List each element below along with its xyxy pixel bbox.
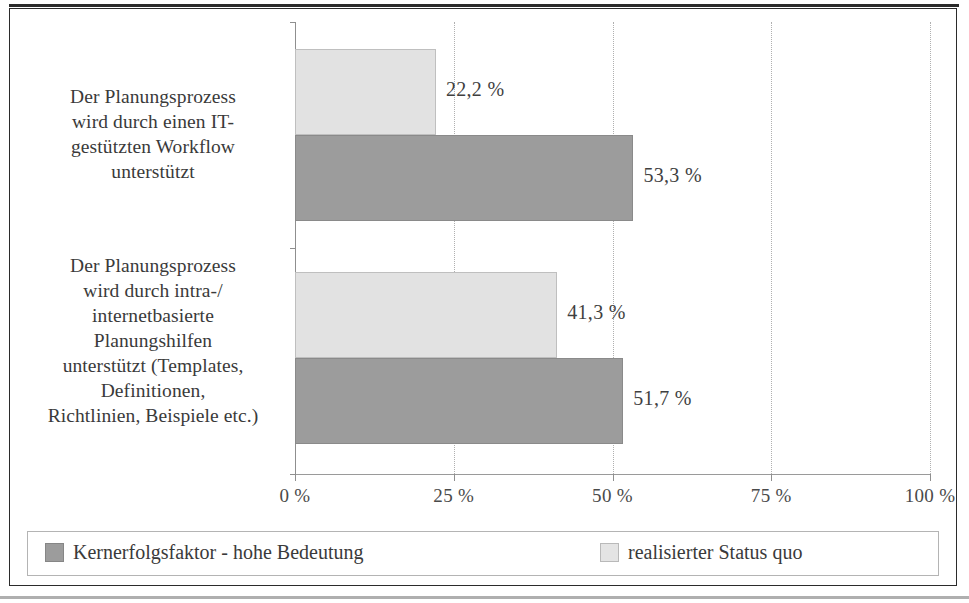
bar-status-quo-0 — [295, 49, 436, 135]
category-axis-tick — [290, 248, 296, 249]
x-axis-tick — [613, 474, 614, 481]
x-axis-tick — [454, 474, 455, 481]
category-label-line: Richtlinien, Beispiele etc.) — [10, 403, 296, 428]
gridline — [930, 22, 932, 474]
category-label-line: Planungshilfen — [10, 328, 296, 353]
category-label-line: Der Planungsprozess — [22, 84, 284, 109]
category-label-line: wird durch intra-/ — [10, 278, 296, 303]
plot-area: 0 %25 %50 %75 %100 % 22,2 %53,3 %41,3 %5… — [295, 22, 930, 474]
x-axis-tick-label: 50 % — [592, 485, 633, 507]
category-axis-tick — [290, 474, 296, 475]
legend-swatch-icon-status — [600, 543, 619, 562]
category-label-line: Definitionen, — [10, 378, 296, 403]
legend-entry-status-quo: realisierter Status quo — [600, 541, 802, 564]
category-label-line: wird durch einen IT- — [22, 109, 284, 134]
legend-label-0: Kernerfolgsfaktor - hohe Bedeutung — [73, 541, 363, 564]
page-top-rule — [9, 4, 959, 7]
bar-label-status-quo-1: 41,3 % — [567, 301, 625, 324]
bar-label-status-quo-0: 22,2 % — [446, 78, 504, 101]
page-bottom-rule — [0, 596, 969, 599]
bar-label-kernerfolgsfaktor-1: 51,7 % — [633, 387, 691, 410]
category-label-line: gestützten Workflow — [22, 134, 284, 159]
legend-swatch-icon-kern — [45, 543, 64, 562]
bar-kernerfolgsfaktor-1 — [295, 358, 623, 444]
x-axis-tick — [771, 474, 772, 481]
category-label-1: Der Planungsprozesswird durch intra-/int… — [10, 253, 296, 428]
x-axis-tick-label: 75 % — [751, 485, 792, 507]
category-label-line: internetbasierte — [10, 303, 296, 328]
category-label-line: unterstützt (Templates, — [10, 353, 296, 378]
legend-label-1: realisierter Status quo — [628, 541, 802, 564]
x-axis-tick — [930, 474, 931, 481]
x-axis-tick-label: 100 % — [905, 485, 956, 507]
bar-status-quo-1 — [295, 272, 557, 358]
x-axis-tick-label: 0 % — [280, 485, 311, 507]
x-axis-tick — [295, 474, 296, 481]
category-label-line: Der Planungsprozess — [10, 253, 296, 278]
category-axis-tick — [290, 22, 296, 23]
gridline — [771, 22, 773, 474]
x-axis-tick-label: 25 % — [433, 485, 474, 507]
category-label-0: Der Planungsprozesswird durch einen IT-g… — [22, 84, 284, 184]
legend-entry-kernerfolgsfaktor: Kernerfolgsfaktor - hohe Bedeutung — [45, 541, 363, 564]
bar-kernerfolgsfaktor-0 — [295, 135, 633, 221]
category-label-line: unterstützt — [22, 159, 284, 184]
chart-figure: Der Planungsprozesswird durch einen IT-g… — [0, 0, 969, 603]
bar-label-kernerfolgsfaktor-0: 53,3 % — [643, 164, 701, 187]
